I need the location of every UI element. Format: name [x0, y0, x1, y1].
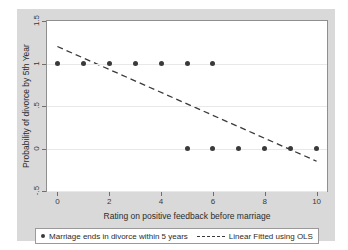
x-tick-label: 4 — [151, 197, 171, 206]
scatter-point — [107, 61, 112, 66]
x-tick-label: 6 — [203, 197, 223, 206]
x-tick-label: 2 — [99, 197, 119, 206]
x-tick-mark — [57, 192, 58, 196]
gridline-y — [47, 106, 327, 107]
legend-marker-icon — [41, 234, 45, 238]
y-tick-label: .5 — [32, 96, 41, 116]
legend-entry-scatter: Marriage ends in divorce within 5 years — [41, 232, 188, 241]
legend-label-fit: Linear Fitted using OLS — [229, 232, 313, 241]
y-tick-label: -.5 — [32, 181, 41, 201]
scatter-point — [185, 61, 190, 66]
x-tick-mark — [265, 192, 266, 196]
x-tick-label: 10 — [307, 197, 327, 206]
y-tick-label: 1 — [32, 53, 41, 73]
scatter-point — [55, 61, 60, 66]
gridline-y — [47, 191, 327, 192]
legend-entry-fit: Linear Fitted using OLS — [197, 232, 313, 241]
graph-region: Probability of divorce by 5th Year 1.51.… — [17, 9, 335, 241]
x-tick-mark — [213, 192, 214, 196]
x-tick-label: 8 — [255, 197, 275, 206]
x-tick-mark — [109, 192, 110, 196]
x-tick-mark — [317, 192, 318, 196]
scatter-point — [133, 61, 138, 66]
chart-screenshot: Probability of divorce by 5th Year 1.51.… — [0, 0, 348, 250]
scatter-point — [185, 146, 190, 151]
y-tick-label: 1.5 — [32, 11, 41, 31]
plot-inner — [47, 21, 327, 191]
legend-label-scatter: Marriage ends in divorce within 5 years — [49, 232, 188, 241]
x-axis-title: Rating on positive feedback before marri… — [46, 211, 328, 221]
x-tick-label: 0 — [47, 197, 67, 206]
y-tick-label: 0 — [32, 138, 41, 158]
y-axis-title: Probability of divorce by 5th Year — [21, 44, 31, 168]
legend-dashed-line-icon — [197, 236, 225, 237]
scatter-point — [159, 61, 164, 66]
plot-area — [46, 20, 328, 192]
x-tick-mark — [161, 192, 162, 196]
chart-legend: Marriage ends in divorce within 5 years … — [35, 228, 319, 244]
scatter-point — [81, 61, 86, 66]
